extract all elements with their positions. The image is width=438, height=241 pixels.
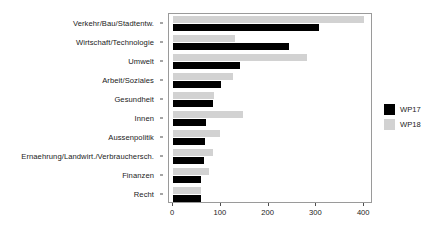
- bar-wp18[interactable]: [173, 187, 201, 194]
- bar-wp18[interactable]: [173, 149, 213, 156]
- y-axis-category-labels: Verkehr/Bau/Stadtentw.Wirtschaft/Technol…: [0, 13, 164, 203]
- x-axis-tick-label: 400: [357, 208, 370, 217]
- y-axis-tick-mark: [160, 98, 163, 99]
- y-axis-tick-mark: [160, 22, 163, 23]
- legend-swatch-icon: [384, 104, 395, 115]
- legend-swatch-icon: [384, 119, 395, 130]
- x-axis-tick-mark: [363, 203, 364, 206]
- y-axis-tick-mark: [160, 193, 163, 194]
- x-axis-tick-label: 200: [261, 208, 274, 217]
- y-axis-tick-label: Innen: [135, 113, 154, 122]
- legend-label: WP17: [400, 105, 421, 114]
- bar-wp17[interactable]: [173, 43, 289, 50]
- y-axis-tick-mark: [160, 60, 163, 61]
- y-axis-tick-label: Wirtschaft/Technologie: [76, 37, 154, 46]
- y-axis-tick-label: Gesundheit: [114, 94, 154, 103]
- x-axis-tick-label: 100: [213, 208, 226, 217]
- y-axis-tick-mark: [160, 136, 163, 137]
- x-axis-tick-label: 300: [309, 208, 322, 217]
- x-axis-tick-mark: [220, 203, 221, 206]
- bar-wp17[interactable]: [173, 62, 240, 69]
- y-axis-tick-label: Umwelt: [128, 56, 154, 65]
- y-axis-tick-label: Finanzen: [122, 170, 154, 179]
- bar-wp18[interactable]: [173, 168, 209, 175]
- legend-item-wp17[interactable]: WP17: [384, 104, 421, 115]
- y-axis-tick-mark: [160, 174, 163, 175]
- bar-wp17[interactable]: [173, 176, 201, 183]
- y-axis-tick-label: Arbeit/Soziales: [102, 75, 154, 84]
- bar-chart: Verkehr/Bau/Stadtentw.Wirtschaft/Technol…: [0, 0, 438, 241]
- legend-label: WP18: [400, 120, 421, 129]
- x-axis-tick-mark: [172, 203, 173, 206]
- bar-wp18[interactable]: [173, 130, 220, 137]
- x-axis-tick-label: 0: [170, 208, 174, 217]
- bar-wp17[interactable]: [173, 157, 204, 164]
- y-axis-tick-label: Aussenpolitik: [108, 132, 154, 141]
- y-axis-tick-label: Verkehr/Bau/Stadtentw.: [73, 18, 154, 27]
- bar-wp17[interactable]: [173, 24, 319, 31]
- y-axis-tick-mark: [160, 79, 163, 80]
- x-axis: 0100200300400: [168, 203, 372, 223]
- x-axis-tick-mark: [315, 203, 316, 206]
- bar-wp17[interactable]: [173, 100, 213, 107]
- bar-wp18[interactable]: [173, 54, 307, 61]
- x-axis-tick-mark: [268, 203, 269, 206]
- bar-wp17[interactable]: [173, 138, 205, 145]
- legend-item-wp18[interactable]: WP18: [384, 119, 421, 130]
- bar-wp17[interactable]: [173, 195, 201, 202]
- y-axis-tick-label: Ernaehrung/Landwirt./Verbrauchersch.: [21, 151, 154, 160]
- bar-wp18[interactable]: [173, 35, 235, 42]
- bar-wp17[interactable]: [173, 119, 206, 126]
- bar-wp18[interactable]: [173, 16, 364, 23]
- chart-legend: WP17WP18: [384, 104, 421, 130]
- y-axis-tick-mark: [160, 117, 163, 118]
- bar-wp18[interactable]: [173, 73, 233, 80]
- plot-panel: [168, 13, 372, 203]
- bar-wp18[interactable]: [173, 111, 243, 118]
- bar-wp17[interactable]: [173, 81, 221, 88]
- y-axis-tick-label: Recht: [134, 189, 154, 198]
- y-axis-tick-mark: [160, 155, 163, 156]
- bar-wp18[interactable]: [173, 92, 214, 99]
- y-axis-tick-mark: [160, 41, 163, 42]
